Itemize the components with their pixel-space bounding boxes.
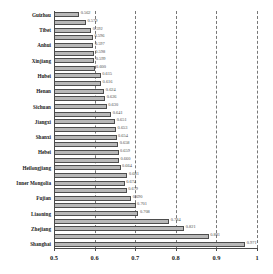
bar[interactable] bbox=[54, 66, 95, 71]
bar[interactable] bbox=[54, 58, 94, 63]
bar[interactable] bbox=[54, 127, 116, 132]
x-axis-tick-label: 0.9 bbox=[212, 253, 220, 262]
x-axis-tick-mark bbox=[95, 248, 96, 251]
bar[interactable] bbox=[54, 12, 79, 17]
bar[interactable] bbox=[54, 28, 91, 33]
bar-value-label: 0.626 bbox=[107, 94, 117, 99]
y-axis-tick-label: Sichuan bbox=[0, 104, 51, 110]
bar-row: 0.596 bbox=[54, 35, 257, 40]
bar[interactable] bbox=[54, 196, 131, 201]
bar-value-label: 0.971 bbox=[247, 240, 257, 245]
bar[interactable] bbox=[54, 135, 117, 140]
bar-row: 0.658 bbox=[54, 142, 257, 147]
bar-row: 0.821 bbox=[54, 226, 257, 231]
y-axis-tick-label: Hubei bbox=[0, 73, 51, 79]
bar-value-label: 0.654 bbox=[118, 133, 128, 138]
x-axis-tick-mark bbox=[257, 248, 258, 251]
bar-row: 0.971 bbox=[54, 242, 257, 247]
y-axis-tick-label: Henan bbox=[0, 88, 51, 94]
bar-row: 0.641 bbox=[54, 112, 257, 117]
horizontal-bar-chart: GuizhouTibetAnhuiXinjiangHubeiHenanSichu… bbox=[0, 0, 273, 274]
bar[interactable] bbox=[54, 158, 119, 163]
bar[interactable] bbox=[54, 181, 125, 186]
bar-value-label: 0.658 bbox=[120, 140, 130, 145]
x-axis-tick-label: 1 bbox=[255, 253, 258, 262]
bar-row: 0.701 bbox=[54, 203, 257, 208]
bar[interactable] bbox=[54, 81, 101, 86]
y-axis-tick-label: Guizhou bbox=[0, 12, 51, 18]
y-axis-tick-label: Anhui bbox=[0, 42, 51, 48]
bar[interactable] bbox=[54, 73, 101, 78]
y-axis-tick-label: Xinjiang bbox=[0, 58, 51, 64]
bar-row: 0.592 bbox=[54, 28, 257, 33]
bar[interactable] bbox=[54, 89, 104, 94]
y-axis-line bbox=[54, 11, 55, 249]
bar[interactable] bbox=[54, 119, 115, 124]
x-axis-tick-label: 0.5 bbox=[50, 253, 58, 262]
bar-value-label: 0.641 bbox=[113, 110, 123, 115]
bar[interactable] bbox=[54, 188, 127, 193]
bar-row: 0.784 bbox=[54, 219, 257, 224]
bar-value-label: 0.651 bbox=[117, 117, 127, 122]
bar[interactable] bbox=[54, 142, 118, 147]
bar-row: 0.562 bbox=[54, 12, 257, 17]
y-axis-tick-label: Tibet bbox=[0, 27, 51, 33]
bar[interactable] bbox=[54, 203, 136, 208]
bar-row: 0.616 bbox=[54, 81, 257, 86]
bar-row: 0.708 bbox=[54, 211, 257, 216]
bar-value-label: 0.659 bbox=[120, 148, 130, 153]
x-axis-tick-mark bbox=[216, 248, 217, 251]
bar-row: 0.654 bbox=[54, 135, 257, 140]
bar-value-label: 0.562 bbox=[81, 10, 91, 15]
bar[interactable] bbox=[54, 96, 105, 101]
y-axis-tick-label: Heilongjiang bbox=[0, 165, 51, 171]
bar-row: 0.651 bbox=[54, 119, 257, 124]
bar-row: 0.630 bbox=[54, 104, 257, 109]
bar-row: 0.660 bbox=[54, 158, 257, 163]
x-axis-tick-label: 0.6 bbox=[91, 253, 99, 262]
bar-value-label: 0.679 bbox=[128, 186, 138, 191]
bar-value-label: 0.821 bbox=[186, 224, 196, 229]
bar[interactable] bbox=[54, 43, 93, 48]
bar[interactable] bbox=[54, 242, 245, 247]
y-axis-tick-label: Zhejiang bbox=[0, 226, 51, 232]
bar-value-label: 0.592 bbox=[93, 26, 103, 31]
bar-value-label: 0.681 bbox=[129, 171, 139, 176]
bar[interactable] bbox=[54, 35, 93, 40]
y-axis-tick-label: Shanxi bbox=[0, 134, 51, 140]
bar-value-label: 0.653 bbox=[118, 125, 128, 130]
bar-value-label: 0.598 bbox=[95, 49, 105, 54]
bar[interactable] bbox=[54, 211, 138, 216]
bar[interactable] bbox=[54, 165, 121, 170]
bar-value-label: 0.690 bbox=[133, 194, 143, 199]
bar-row: 0.579 bbox=[54, 20, 257, 25]
bar-value-label: 0.597 bbox=[95, 41, 105, 46]
bar-value-label: 0.596 bbox=[94, 33, 104, 38]
bar-row: 0.881 bbox=[54, 234, 257, 239]
y-axis-tick-label: Inner Mongolia bbox=[0, 180, 51, 186]
bar[interactable] bbox=[54, 234, 209, 239]
bar-row: 0.653 bbox=[54, 127, 257, 132]
bar-value-label: 0.599 bbox=[96, 56, 106, 61]
bar[interactable] bbox=[54, 150, 119, 155]
bar[interactable] bbox=[54, 173, 127, 178]
bar[interactable] bbox=[54, 20, 86, 25]
x-axis-tick-mark bbox=[176, 248, 177, 251]
x-axis-tick-mark bbox=[135, 248, 136, 251]
bar-value-label: 0.664 bbox=[122, 163, 132, 168]
bar[interactable] bbox=[54, 226, 184, 231]
bar-value-label: 0.579 bbox=[88, 18, 98, 23]
bar-row: 0.664 bbox=[54, 165, 257, 170]
bar-value-label: 0.660 bbox=[120, 156, 130, 161]
bar[interactable] bbox=[54, 51, 94, 56]
x-axis-tick-mark bbox=[54, 248, 55, 251]
bar-value-label: 0.701 bbox=[137, 201, 147, 206]
bar[interactable] bbox=[54, 112, 111, 117]
bar[interactable] bbox=[54, 219, 169, 224]
x-axis-tick-label: 0.7 bbox=[131, 253, 139, 262]
bar-value-label: 0.784 bbox=[171, 217, 181, 222]
bar-value-label: 0.881 bbox=[210, 232, 220, 237]
bar[interactable] bbox=[54, 104, 107, 109]
bar-row: 0.674 bbox=[54, 181, 257, 186]
x-axis-line bbox=[54, 248, 257, 249]
